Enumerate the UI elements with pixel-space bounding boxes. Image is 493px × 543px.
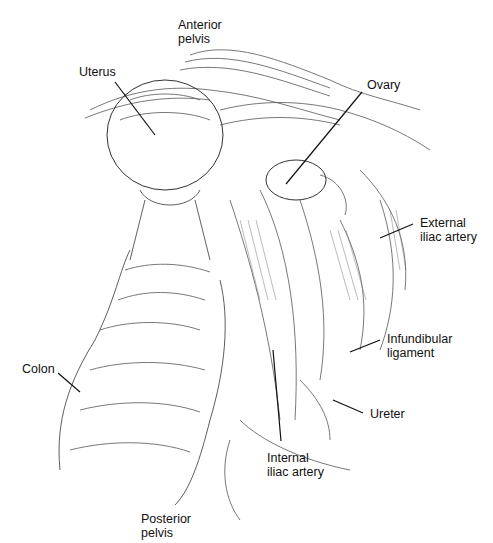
ureter-leader-line (333, 400, 363, 413)
label-line: Colon (22, 362, 55, 376)
label-infundibular-ligament: Infundibular ligament (387, 332, 452, 360)
label-colon: Colon (22, 362, 55, 376)
label-anterior-pelvis: Anterior pelvis (178, 18, 222, 46)
anatomy-illustration (0, 0, 493, 543)
colon-leader-line (58, 373, 80, 392)
pelvic-anatomy-figure: Anterior pelvis Uterus Ovary External il… (0, 0, 493, 543)
label-line: pelvis (178, 32, 222, 46)
label-external-iliac-artery: External iliac artery (420, 216, 477, 244)
label-posterior-pelvis: Posterior pelvis (141, 512, 191, 540)
label-line: pelvis (141, 526, 191, 540)
label-line: Uterus (79, 65, 116, 79)
label-ureter: Ureter (370, 407, 405, 421)
label-line: External (420, 216, 477, 230)
label-line: ligament (387, 346, 452, 360)
label-line: Internal (267, 451, 324, 465)
ovary-leader-line (286, 92, 362, 184)
infundibular-leader-line (350, 340, 380, 352)
external-iliac-leader-line (380, 224, 413, 238)
label-ovary: Ovary (367, 78, 400, 92)
label-internal-iliac-artery: Internal iliac artery (267, 451, 324, 479)
label-line: Ureter (370, 407, 405, 421)
label-line: Posterior (141, 512, 191, 526)
label-line: Ovary (367, 78, 400, 92)
internal-iliac-leader-line (273, 350, 281, 441)
label-line: iliac artery (267, 465, 324, 479)
label-uterus: Uterus (79, 65, 116, 79)
label-line: Anterior (178, 18, 222, 32)
label-line: iliac artery (420, 230, 477, 244)
leader-lines (58, 82, 413, 441)
label-line: Infundibular (387, 332, 452, 346)
uterus-leader-line (115, 82, 155, 135)
